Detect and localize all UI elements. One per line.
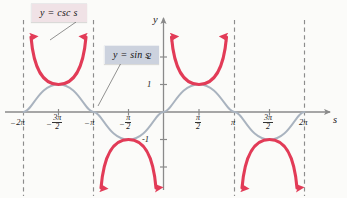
tick-value: π	[90, 117, 94, 127]
y-tick-label-2: 2	[147, 51, 151, 61]
csc-branch-2	[101, 140, 156, 189]
x-tick-label-pi-2: π 2	[195, 115, 201, 132]
csc-callout-leader	[50, 22, 76, 40]
x-tick-label-neg-2pi: −2π	[10, 117, 25, 128]
fraction: π 2	[195, 114, 201, 131]
minus-sign: −	[46, 119, 52, 129]
x-tick-label-neg-pi-2: − π 2	[119, 115, 131, 132]
fraction: 3π 2	[52, 114, 62, 131]
fraction-denominator: 2	[195, 122, 201, 131]
x-tick-label-pi: π	[231, 117, 235, 127]
y-tick-label-1: 1	[147, 79, 151, 89]
fraction-numerator: 3π	[52, 114, 62, 122]
csc-branch-3	[172, 37, 227, 85]
x-tick-label-2pi: 2π	[299, 117, 308, 127]
fraction-numerator: π	[125, 114, 131, 122]
sin-callout-leader	[98, 63, 121, 106]
csc-sin-graph-figure: y = csc s y = sin s y s 2 1 -1 −2π − 3π …	[0, 0, 347, 198]
y-axis-label: y	[153, 14, 158, 25]
csc-branch-1	[31, 37, 86, 85]
graph-canvas	[0, 0, 347, 198]
x-tick-label-neg-pi: −π	[84, 117, 95, 128]
fraction: 3π 2	[263, 114, 273, 131]
fraction-denominator: 2	[52, 122, 62, 131]
fraction-numerator: 3π	[263, 114, 273, 122]
fraction-numerator: π	[195, 114, 201, 122]
minus-sign: −	[84, 118, 90, 128]
minus-sign: −	[10, 118, 16, 128]
fraction: π 2	[125, 114, 131, 131]
x-axis-label: s	[333, 114, 337, 125]
x-tick-label-3pi-2: 3π 2	[263, 115, 273, 132]
callout-csc-label: y = csc s	[31, 3, 87, 22]
fraction-denominator: 2	[125, 122, 131, 131]
x-tick-label-neg-3pi-2: − 3π 2	[46, 115, 62, 132]
y-tick-label-neg-1: -1	[142, 134, 149, 144]
csc-branch-4	[242, 140, 297, 189]
fraction-denominator: 2	[263, 122, 273, 131]
tick-value: 2π	[16, 117, 25, 127]
minus-sign: −	[119, 119, 125, 129]
